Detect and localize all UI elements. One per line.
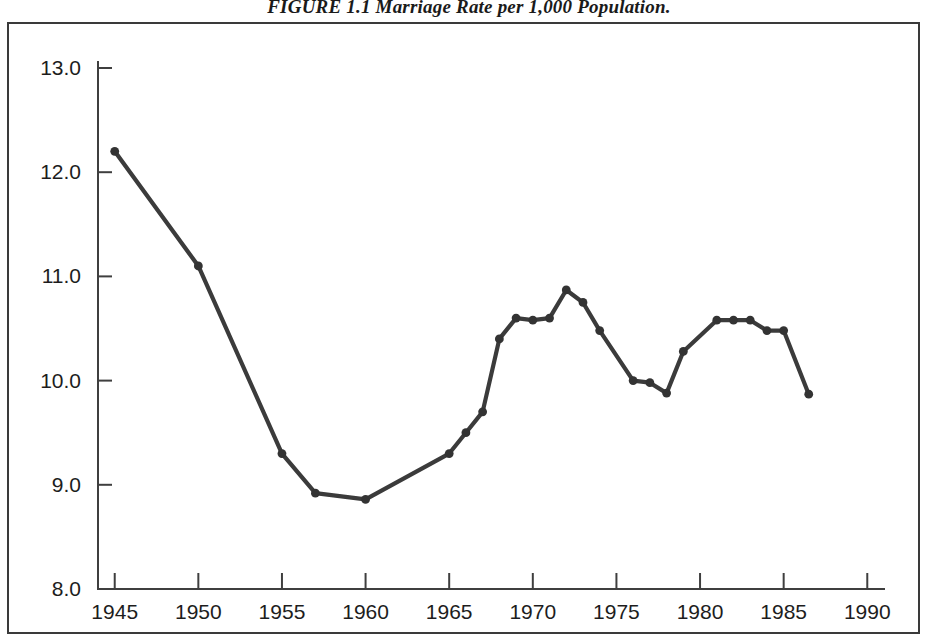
figure-caption: FIGURE 1.1 Marriage Rate per 1,000 Popul… xyxy=(0,0,938,18)
line-chart: 13.012.011.010.09.08.0 19451950195519601… xyxy=(9,24,918,632)
x-tick-label: 1965 xyxy=(426,600,473,623)
data-point-marker xyxy=(679,347,688,356)
data-point-marker xyxy=(562,286,571,295)
data-point-marker xyxy=(712,316,721,325)
y-tick-label: 9.0 xyxy=(52,473,81,496)
y-tick-label: 8.0 xyxy=(52,577,81,600)
figure-caption-text: Marriage Rate per 1,000 Population. xyxy=(376,0,671,17)
x-tick-label: 1950 xyxy=(175,600,222,623)
y-axis-ticks: 13.012.011.010.09.08.0 xyxy=(40,56,112,600)
x-tick-label: 1945 xyxy=(91,600,138,623)
x-tick-label: 1970 xyxy=(509,600,556,623)
data-point-marker xyxy=(311,489,320,498)
y-tick-label: 13.0 xyxy=(40,56,81,79)
data-point-marker xyxy=(629,376,638,385)
data-point-marker xyxy=(194,262,203,271)
data-series xyxy=(110,147,813,504)
series-markers xyxy=(110,147,813,504)
data-point-marker xyxy=(662,389,671,398)
x-tick-label: 1980 xyxy=(677,600,724,623)
axes xyxy=(98,62,884,589)
plot-frame: 13.012.011.010.09.08.0 19451950195519601… xyxy=(7,22,920,634)
figure-container: FIGURE 1.1 Marriage Rate per 1,000 Popul… xyxy=(0,0,938,640)
y-tick-label: 12.0 xyxy=(40,160,81,183)
data-point-marker xyxy=(763,326,772,335)
data-point-marker xyxy=(495,335,504,344)
y-tick-label: 11.0 xyxy=(42,264,81,287)
x-tick-label: 1955 xyxy=(259,600,306,623)
data-point-marker xyxy=(445,449,454,458)
data-point-marker xyxy=(361,495,370,504)
x-tick-label: 1975 xyxy=(593,600,640,623)
data-point-marker xyxy=(478,407,487,416)
data-point-marker xyxy=(595,326,604,335)
figure-caption-label: FIGURE 1.1 xyxy=(267,0,370,17)
x-tick-label: 1990 xyxy=(844,600,891,623)
data-point-marker xyxy=(645,378,654,387)
data-point-marker xyxy=(528,316,537,325)
data-point-marker xyxy=(746,316,755,325)
data-point-marker xyxy=(804,390,813,399)
data-point-marker xyxy=(729,316,738,325)
data-point-marker xyxy=(110,147,119,156)
data-point-marker xyxy=(545,314,554,323)
x-tick-label: 1985 xyxy=(760,600,807,623)
x-tick-label: 1960 xyxy=(342,600,389,623)
data-point-marker xyxy=(779,326,788,335)
data-point-marker xyxy=(579,298,588,307)
series-line-marriage-rate xyxy=(115,151,809,499)
x-axis-ticks: 1945195019551960196519701975198019851990 xyxy=(91,573,890,623)
data-point-marker xyxy=(462,428,471,437)
data-point-marker xyxy=(278,449,287,458)
data-point-marker xyxy=(512,314,521,323)
y-tick-label: 10.0 xyxy=(40,369,81,392)
